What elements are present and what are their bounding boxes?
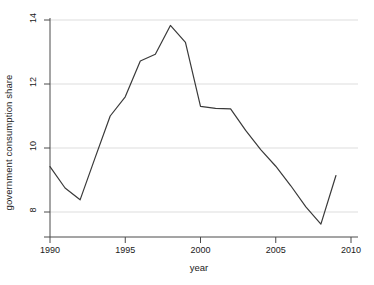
x-tick-label: 2005: [256, 245, 296, 255]
data-series-line: [50, 25, 336, 224]
line-plot: [0, 0, 374, 285]
x-tick-label: 1995: [105, 245, 145, 255]
y-tick-label: 12: [28, 71, 38, 93]
y-tick-label: 10: [28, 135, 38, 157]
x-tick-label: 2010: [331, 245, 371, 255]
axis-ticks: [44, 20, 351, 243]
y-tick-label: 8: [28, 199, 38, 221]
y-axis-title: government consumption share: [0, 0, 16, 285]
y-tick-label: 14: [28, 7, 38, 29]
x-tick-label: 1990: [30, 245, 70, 255]
chart-container: government consumption share year 810121…: [0, 0, 374, 285]
x-axis-title: year: [44, 262, 354, 273]
gridlines: [50, 20, 358, 212]
x-tick-label: 2000: [181, 245, 221, 255]
